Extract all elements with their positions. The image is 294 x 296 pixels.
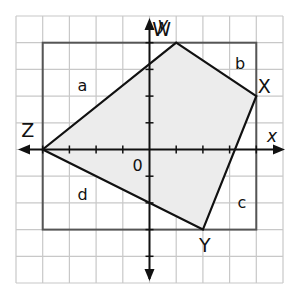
- region-label-b: b: [235, 54, 245, 73]
- x-axis-label: x: [266, 126, 278, 146]
- vertex-label-w: W: [152, 18, 171, 40]
- vertex-label-x: X: [258, 75, 271, 97]
- vertex-label-y: Y: [198, 234, 211, 256]
- coordinate-plane: yx0WXYZabcd: [0, 0, 294, 296]
- region-label-c: c: [238, 193, 247, 212]
- region-label-a: a: [77, 76, 87, 95]
- region-label-d: d: [77, 185, 87, 204]
- origin-label: 0: [133, 156, 143, 175]
- vertex-label-z: Z: [21, 119, 34, 141]
